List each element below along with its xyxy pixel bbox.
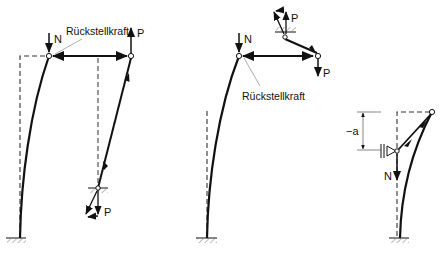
label-n-right: N bbox=[384, 170, 392, 182]
figure-left: N Rückstellkraft P P bbox=[6, 25, 144, 243]
force-component-horizontal-middle bbox=[276, 10, 284, 11]
column-middle bbox=[207, 56, 239, 238]
diagram-canvas: N Rückstellkraft P P bbox=[0, 0, 442, 256]
force-resultant-left bbox=[86, 191, 97, 214]
column-left bbox=[20, 56, 49, 238]
top-node-middle bbox=[236, 53, 241, 58]
strut-left bbox=[98, 58, 131, 188]
label-n-left: N bbox=[54, 33, 62, 45]
figure-right: N −a bbox=[346, 109, 435, 243]
fixed-support-left bbox=[6, 238, 26, 243]
label-p-left: P bbox=[137, 27, 144, 39]
leader-line-middle bbox=[244, 58, 260, 86]
figure-middle: N Rückstellkraft P P bbox=[196, 10, 330, 243]
lever-node-left bbox=[128, 53, 133, 58]
top-node-left bbox=[46, 53, 51, 58]
label-restoring-force-left: Rückstellkraft bbox=[66, 25, 129, 37]
dimension-a bbox=[357, 112, 381, 150]
fixed-support-middle bbox=[196, 238, 217, 243]
label-p-middle: P bbox=[323, 67, 330, 79]
fixed-support-right bbox=[389, 238, 409, 243]
force-component-horizontal-left bbox=[88, 216, 98, 217]
label-dimension-a: −a bbox=[346, 125, 359, 137]
label-n-middle: N bbox=[244, 33, 252, 45]
strut-right bbox=[398, 114, 431, 150]
label-p-bottom-left: P bbox=[104, 206, 111, 218]
label-p-top-middle: P bbox=[291, 12, 298, 24]
undeformed-shape-left bbox=[20, 56, 49, 236]
label-restoring-force-middle: Rückstellkraft bbox=[242, 90, 305, 102]
